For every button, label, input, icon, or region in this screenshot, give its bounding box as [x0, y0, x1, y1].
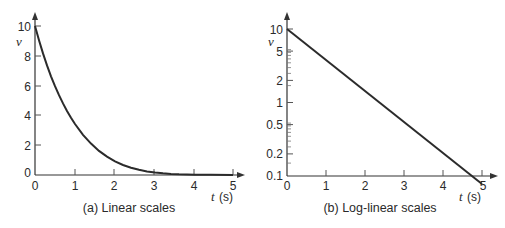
caption-log-linear: (b) Log-linear scales	[323, 201, 436, 215]
y-tick-label: 0	[24, 166, 31, 180]
y-axis-label: v	[268, 34, 274, 49]
y-tick-label: 1	[276, 96, 283, 110]
y-tick-label: 2	[276, 74, 283, 88]
chart-log-linear: 10 5 2 1 0.5 0.2 0.1 v 0 1 2 3 4 5 t (s)	[266, 16, 494, 215]
y-axis-label: v	[16, 34, 22, 49]
y-major-ticks	[287, 29, 293, 154]
x-tick-label: 2	[111, 179, 118, 193]
svg-text:t: t	[459, 189, 463, 204]
x-tick-label: 0	[284, 179, 291, 193]
x-tick-label: 1	[323, 179, 330, 193]
x-tick-label: 2	[362, 179, 369, 193]
y-tick-label: 4	[24, 109, 31, 123]
x-tick-label: 1	[72, 179, 79, 193]
chart-linear: 10 8 6 4 2 0 v 0 1 2 3 4 5 t (s)	[16, 16, 241, 215]
y-tick-label: 8	[24, 50, 31, 64]
y-tick-label: 10	[18, 20, 32, 34]
x-tick-label: 3	[151, 179, 158, 193]
x-tick-label: 3	[401, 179, 408, 193]
x-ticks	[326, 170, 482, 176]
x-tick-labels: 0 1 2 3 4 5	[284, 179, 487, 193]
y-tick-label: 6	[24, 80, 31, 94]
decay-curve	[35, 26, 233, 175]
svg-text:t: t	[211, 189, 215, 204]
y-tick-label: 0.2	[266, 147, 283, 161]
y-tick-label: 0.5	[266, 118, 283, 132]
x-tick-labels: 0 1 2 3 4 5	[32, 179, 237, 193]
caption-linear: (a) Linear scales	[83, 201, 175, 215]
x-axis-label: t (s)	[459, 189, 481, 204]
figure: 10 8 6 4 2 0 v 0 1 2 3 4 5 t (s)	[0, 0, 505, 228]
svg-text:(s): (s)	[219, 190, 233, 204]
y-tick-label: 0.1	[266, 169, 283, 183]
x-tick-label: 4	[191, 179, 198, 193]
y-tick-label: 5	[276, 45, 283, 59]
decay-line	[287, 29, 482, 184]
x-tick-label: 4	[440, 179, 447, 193]
y-tick-label: 2	[24, 139, 31, 153]
svg-text:(s): (s)	[467, 190, 481, 204]
x-tick-label: 0	[32, 179, 39, 193]
x-axis-label: t (s)	[211, 189, 233, 204]
